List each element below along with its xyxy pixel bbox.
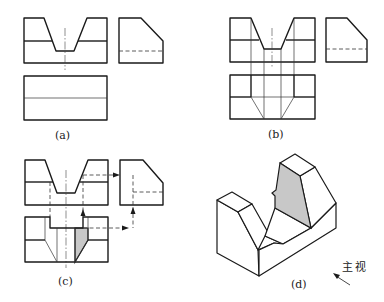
view-direction-label: 主视	[342, 258, 368, 274]
panel-d-isometric	[217, 154, 350, 285]
arrow-head-icon	[122, 226, 129, 231]
arrow-head-icon	[113, 173, 120, 178]
panel-c-side-view	[81, 160, 164, 228]
arrow-head-icon	[81, 209, 86, 216]
panel-c-label: (c)	[58, 275, 73, 288]
panel-b-label: (b)	[268, 128, 284, 141]
panel-a	[24, 18, 163, 120]
panel-b-front-view	[230, 18, 315, 75]
arrow-head-icon	[131, 207, 136, 214]
panel-b-side-view	[326, 18, 367, 62]
panel-a-side-view	[119, 18, 163, 63]
projection-drawing	[0, 0, 384, 302]
panel-c	[25, 160, 163, 268]
panel-a-top-view	[24, 76, 107, 120]
panel-c-front-view	[25, 160, 108, 268]
panel-d-label: (d)	[291, 278, 307, 291]
panel-b-top-view	[230, 75, 315, 119]
panel-c-top-view	[25, 217, 129, 262]
panel-a-label: (a)	[55, 129, 70, 142]
panel-a-front-view	[24, 18, 107, 70]
shaded-inclined-face	[75, 228, 88, 262]
panel-b	[230, 18, 367, 119]
